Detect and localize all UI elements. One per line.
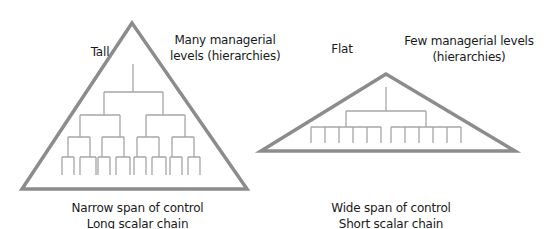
flat-org-tree [311, 87, 461, 143]
flat-levels-note: Few managerial levels (hierarchies) [396, 33, 542, 65]
flat-title: Flat [322, 41, 362, 57]
tall-levels-note: Many managerial levels (hierarchies) [170, 32, 280, 64]
flat-caption-line-2: Short scalar chain [325, 216, 457, 229]
flat-levels-note-line-2: (hierarchies) [396, 49, 542, 65]
tall-levels-note-line-2: levels (hierarchies) [170, 48, 280, 64]
flat-structure-triangle [261, 74, 515, 151]
flat-caption-line-1: Wide span of control [325, 200, 457, 216]
flat-levels-note-line-1: Few managerial levels [396, 33, 542, 49]
tall-caption-line-2: Long scalar chain [65, 216, 210, 229]
tall-org-tree [62, 64, 200, 175]
tall-caption: Narrow span of control Long scalar chain [65, 200, 210, 229]
tall-title: Tall [80, 44, 120, 60]
flat-caption: Wide span of control Short scalar chain [325, 200, 457, 229]
tall-levels-note-line-1: Many managerial [170, 32, 280, 48]
tall-caption-line-1: Narrow span of control [65, 200, 210, 216]
